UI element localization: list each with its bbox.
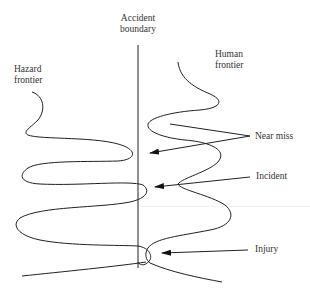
- hazard-frontier-tail: [22, 262, 146, 276]
- near-miss-label: Near miss: [255, 131, 293, 142]
- hazard-frontier-label-line1: Hazard: [14, 64, 43, 75]
- near-miss-pointer-upper: [170, 124, 250, 136]
- accident-boundary-label-line2: boundary: [120, 24, 156, 35]
- accident-model-diagram: Accident boundary Hazard frontier Human …: [0, 0, 310, 295]
- human-frontier-label-line2: frontier: [215, 60, 244, 71]
- injury-label: Injury: [255, 244, 278, 255]
- hazard-frontier-label: Hazard frontier: [14, 64, 43, 86]
- hazard-frontier-curve: [16, 92, 151, 265]
- human-frontier-label: Human frontier: [215, 49, 244, 71]
- incident-label: Incident: [256, 171, 287, 182]
- near-miss-pointer-arrow: [150, 136, 250, 153]
- human-frontier-curve: [146, 62, 231, 282]
- accident-boundary-label-line1: Accident: [120, 13, 156, 24]
- incident-arrow: [155, 177, 250, 187]
- hazard-frontier-label-line2: frontier: [14, 75, 43, 86]
- injury-arrow: [162, 250, 248, 253]
- accident-boundary-label: Accident boundary: [120, 13, 156, 35]
- human-frontier-label-line1: Human: [215, 49, 244, 60]
